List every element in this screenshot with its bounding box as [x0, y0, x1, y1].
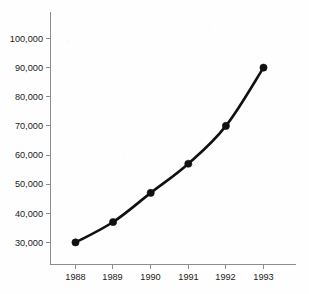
- y-tick-label: 80,000: [15, 92, 43, 102]
- y-tick-label: 50,000: [15, 179, 43, 189]
- series-line-path: [76, 68, 264, 243]
- data-point-marker: [72, 239, 79, 246]
- y-tick-label: 40,000: [15, 209, 43, 219]
- y-tick-label: 100,000: [10, 34, 43, 44]
- y-tick-label: 60,000: [15, 150, 43, 160]
- x-tick-label: 1990: [140, 272, 160, 282]
- axis-group: [51, 12, 297, 265]
- x-tick-label: 1991: [178, 272, 198, 282]
- data-point-marker: [222, 122, 229, 129]
- chart-plot-area: 100,000 90,000 80,000 70,000 60,000 50,0…: [0, 0, 309, 294]
- x-tick-label: 1993: [253, 272, 273, 282]
- x-tick-label: 1988: [65, 272, 85, 282]
- series-marker-group: [72, 64, 267, 246]
- data-point-marker: [147, 189, 154, 196]
- y-tick-marks: [46, 39, 51, 243]
- x-axis-tick-labels: 1988 1989 1990 1991 1992 1993: [65, 272, 273, 282]
- y-tick-label: 70,000: [15, 121, 43, 131]
- line-chart: 100,000 90,000 80,000 70,000 60,000 50,0…: [0, 0, 309, 294]
- x-tick-marks: [76, 265, 264, 270]
- y-axis-tick-labels: 100,000 90,000 80,000 70,000 60,000 50,0…: [10, 34, 43, 248]
- data-series-group: [72, 64, 267, 246]
- data-point-marker: [260, 64, 267, 71]
- data-point-marker: [185, 160, 192, 167]
- y-tick-label: 90,000: [15, 63, 43, 73]
- x-tick-label: 1992: [215, 272, 235, 282]
- data-point-marker: [110, 218, 117, 225]
- y-tick-label: 30,000: [15, 238, 43, 248]
- x-tick-label: 1989: [102, 272, 122, 282]
